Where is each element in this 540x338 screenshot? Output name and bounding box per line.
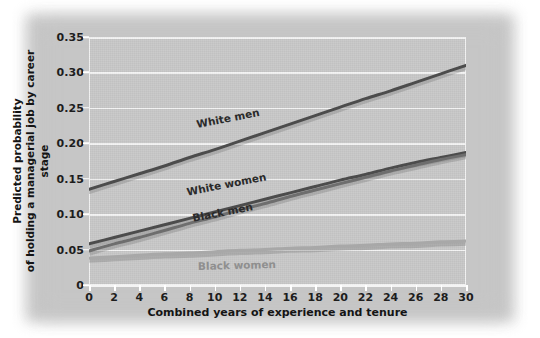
- y-axis-tick-label: 0.35: [56, 31, 84, 44]
- x-axis-tick-label: 4: [135, 291, 143, 304]
- y-axis-tick-label: 0.30: [56, 66, 84, 79]
- x-axis-tick-mark: [365, 285, 367, 291]
- x-axis-tick-label: 14: [257, 291, 272, 304]
- y-axis-tick-label: 0.10: [56, 208, 84, 221]
- x-axis-tick-mark: [215, 285, 217, 291]
- x-axis-tick-label: 20: [333, 291, 348, 304]
- x-axis-tick-label: 12: [232, 291, 247, 304]
- y-axis-title: Predicted probability of holding a manag…: [14, 37, 48, 285]
- x-axis-tick-label: 26: [408, 291, 423, 304]
- y-axis-tick-label: 0.20: [56, 137, 84, 150]
- x-axis-tick-label: 18: [308, 291, 323, 304]
- x-axis-tick-label: 30: [458, 291, 473, 304]
- x-axis-tick-mark: [340, 285, 342, 291]
- x-axis-tick-mark: [265, 285, 267, 291]
- x-axis-tick-mark: [391, 285, 393, 291]
- series-curves: [89, 37, 466, 285]
- x-axis-tick-label: 28: [433, 291, 448, 304]
- series-line-black-women: [89, 241, 466, 258]
- x-axis-tick-label: 24: [383, 291, 398, 304]
- series-line-shadow: [89, 243, 466, 260]
- y-axis-tick-label: 0.05: [56, 243, 84, 256]
- x-axis-tick-mark: [290, 285, 292, 291]
- x-axis-tick-mark: [164, 285, 166, 291]
- y-axis-tick-label: 0.15: [56, 172, 84, 185]
- y-axis-title-line1: Predicted probability: [11, 98, 23, 223]
- x-axis-tick-mark: [89, 285, 91, 291]
- x-axis-tick-mark: [114, 285, 116, 291]
- series-label-black-women: Black women: [198, 258, 276, 272]
- x-axis-tick-mark: [466, 285, 468, 291]
- x-axis-tick-mark: [441, 285, 443, 291]
- x-axis-tick-label: 22: [358, 291, 373, 304]
- x-axis-tick-label: 2: [110, 291, 118, 304]
- x-axis-tick-mark: [139, 285, 141, 291]
- x-axis-tick-label: 16: [282, 291, 297, 304]
- chart-figure: 00.050.100.150.200.250.300.35 White men …: [0, 0, 540, 338]
- y-axis-tick-label: 0.25: [56, 101, 84, 114]
- x-axis-tick-label: 0: [85, 291, 93, 304]
- gridline: [89, 285, 466, 287]
- x-axis-tick-label: 8: [186, 291, 194, 304]
- x-axis-tick-mark: [416, 285, 418, 291]
- x-axis-tick-mark: [240, 285, 242, 291]
- x-axis-tick-mark: [190, 285, 192, 291]
- x-axis-tick-label: 6: [161, 291, 169, 304]
- x-axis-title: Combined years of experience and tenure: [89, 306, 466, 319]
- x-axis-ticks: 024681012141618202224262830: [89, 291, 466, 307]
- x-axis-tick-mark: [315, 285, 317, 291]
- y-axis-title-line2: of holding a managerial job by career st…: [24, 50, 49, 272]
- x-axis-tick-label: 10: [207, 291, 222, 304]
- plot-area: [89, 37, 466, 285]
